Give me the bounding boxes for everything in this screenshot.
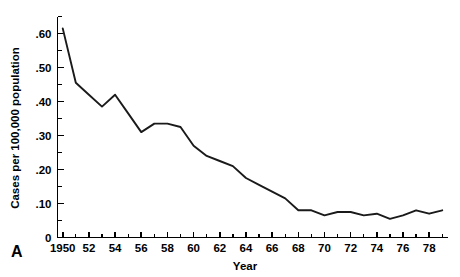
y-tick-label: .40 <box>36 96 52 108</box>
panel-label: A <box>11 243 23 260</box>
figure-panel-a: 19505254565860626466687072747678 0.10.20… <box>0 0 460 277</box>
x-axis-tick-labels: 19505254565860626466687072747678 <box>50 242 436 254</box>
y-tick-label: .20 <box>36 164 52 176</box>
x-tick-label: 58 <box>161 242 174 254</box>
x-tick-label: 60 <box>187 242 200 254</box>
x-tick-label: 56 <box>135 242 148 254</box>
x-tick-label: 54 <box>109 242 122 254</box>
x-tick-label: 72 <box>344 242 357 254</box>
x-tick-label: 64 <box>240 242 253 254</box>
y-axis-title: Cases per 100,000 population <box>9 47 21 209</box>
y-tick-label: .10 <box>36 198 52 210</box>
y-tick-label: .30 <box>36 130 52 142</box>
x-axis-ticks <box>63 232 443 238</box>
x-tick-label: 62 <box>213 242 226 254</box>
x-tick-label: 78 <box>423 242 436 254</box>
y-tick-label: .60 <box>36 28 52 40</box>
x-tick-label: 70 <box>318 242 331 254</box>
data-series <box>63 28 443 218</box>
x-tick-label: 52 <box>83 242 96 254</box>
y-axis-ticks <box>58 17 64 238</box>
x-tick-label: 1950 <box>50 242 76 254</box>
x-tick-label: 74 <box>370 242 383 254</box>
x-tick-label: 66 <box>266 242 279 254</box>
x-axis-title: Year <box>233 260 258 272</box>
y-tick-label: 0 <box>45 232 51 244</box>
x-tick-label: 68 <box>292 242 305 254</box>
x-tick-label: 76 <box>397 242 410 254</box>
y-axis-tick-labels: 0.10.20.30.40.50.60 <box>36 28 52 244</box>
series-line <box>63 28 443 218</box>
axes <box>58 17 448 238</box>
line-chart: 19505254565860626466687072747678 0.10.20… <box>0 0 460 277</box>
y-tick-label: .50 <box>36 62 52 74</box>
